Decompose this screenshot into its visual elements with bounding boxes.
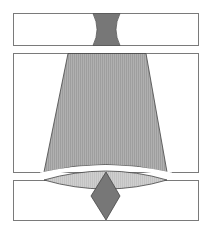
optical-diagram [0,0,212,229]
hourglass-neck-shape [93,14,120,46]
bottom-panel [14,171,199,221]
top-panel [14,14,199,46]
middle-panel [14,54,199,177]
